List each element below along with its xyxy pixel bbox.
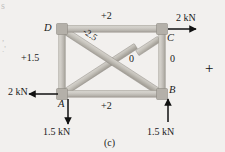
figure-caption: (c) (104, 138, 115, 148)
reaction-label-a: 1.5 kN (43, 127, 70, 137)
member-force-bottom: +2 (101, 101, 112, 111)
scan-artifact-top: s (1, 0, 5, 11)
joint-label-a: A (58, 99, 64, 110)
member-force-left: +1.5 (21, 53, 39, 63)
load-label-c: 2 kN (176, 13, 196, 23)
gusset-plate-c (157, 24, 168, 35)
scan-artifact-mid2: .' (2, 44, 6, 54)
member-force-right: 0 (170, 54, 175, 64)
gusset-plate-b (157, 89, 168, 100)
load-label-a: 2 kN (8, 87, 28, 97)
reaction-label-b: 1.5 kN (147, 127, 174, 137)
joint-label-d: D (44, 23, 52, 34)
member-top-chord (62, 26, 162, 33)
joint-label-b: B (169, 85, 175, 96)
member-diagonal-ac (57, 36, 161, 98)
margin-plus-mark: + (205, 61, 213, 76)
gusset-plate-d (57, 24, 68, 35)
member-left-post (59, 29, 66, 94)
member-force-diagonal-ac: 0 (129, 54, 134, 64)
member-bottom-chord (62, 91, 162, 98)
member-right-post (159, 29, 166, 94)
joint-label-c: C (167, 33, 174, 44)
member-force-top: +2 (101, 11, 112, 21)
scan-artifact-mid: , (2, 33, 4, 43)
